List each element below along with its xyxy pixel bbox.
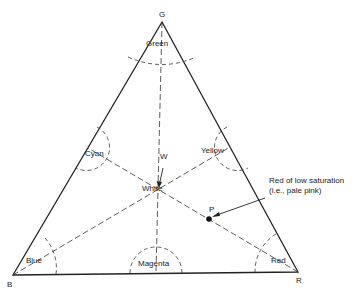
point-p (206, 216, 212, 222)
region-label-red: Red (271, 257, 286, 265)
region-label-green: Green (146, 40, 168, 48)
median-r (88, 148, 298, 272)
annotation-pale-pink: Red of low saturation (i.e., pale pink) (269, 176, 355, 195)
region-label-white: White (142, 185, 162, 193)
median-g (156, 22, 162, 273)
vertex-b-label: B (7, 281, 12, 289)
marker-w-label: W (160, 153, 168, 161)
region-label-magenta: Magenta (138, 260, 169, 268)
p-pointer (214, 198, 265, 216)
vertex-g-label: G (159, 11, 165, 19)
color-triangle-diagram (0, 0, 355, 291)
region-label-cyan: Cyan (85, 150, 104, 158)
triangle-outline (13, 22, 298, 275)
vertex-r-label: R (296, 277, 302, 285)
arc-blue (45, 238, 56, 274)
region-label-blue: Blue (26, 257, 42, 265)
marker-p-label: P (209, 206, 214, 214)
median-b (13, 147, 230, 275)
region-label-yellow: Yellow (201, 147, 224, 155)
